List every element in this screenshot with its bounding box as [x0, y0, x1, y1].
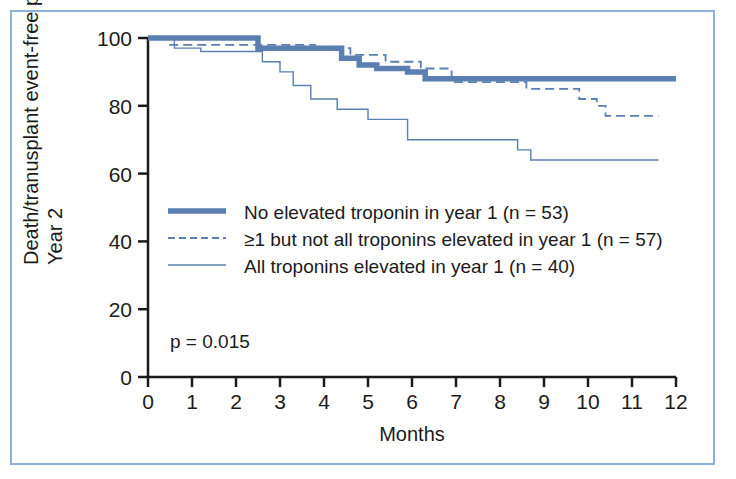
- y-tick-label: 100: [97, 27, 132, 50]
- x-tick-label: 8: [494, 390, 506, 413]
- x-tick-label: 3: [274, 390, 286, 413]
- x-tick-label: 10: [576, 390, 599, 413]
- kaplan-meier-figure: 020406080100 0123456789101112 Death/tran…: [0, 0, 736, 479]
- y-axis-title: Death/tranusplant event-free probability…: [20, 0, 42, 265]
- x-tick-label: 7: [450, 390, 462, 413]
- x-axis-ticks: 0123456789101112: [142, 377, 688, 413]
- y-tick-label: 80: [109, 95, 132, 118]
- x-tick-label: 2: [230, 390, 242, 413]
- x-tick-label: 9: [538, 390, 550, 413]
- y-tick-label: 60: [109, 163, 132, 186]
- legend-label-2: ≥1 but not all troponins elevated in yea…: [244, 229, 663, 250]
- p-value-annotation: p = 0.015: [170, 331, 250, 352]
- x-tick-label: 5: [362, 390, 374, 413]
- y-tick-label: 0: [120, 366, 132, 389]
- y-axis-ticks: 020406080100: [97, 27, 148, 389]
- legend-label-3: All troponins elevated in year 1 (n = 40…: [244, 256, 575, 277]
- x-axis-title: Months: [379, 423, 445, 445]
- y-tick-label: 40: [109, 230, 132, 253]
- y-tick-label: 20: [109, 298, 132, 321]
- chart-svg: 020406080100 0123456789101112 Death/tran…: [0, 0, 736, 479]
- y-axis-title-line2: Year 2: [44, 208, 66, 265]
- x-tick-label: 12: [664, 390, 687, 413]
- x-tick-label: 4: [318, 390, 330, 413]
- x-tick-label: 11: [621, 390, 643, 413]
- legend-label-1: No elevated troponin in year 1 (n = 53): [244, 202, 569, 223]
- survival-curves: [148, 38, 676, 160]
- x-tick-label: 6: [406, 390, 418, 413]
- x-tick-label: 0: [142, 390, 154, 413]
- chart-legend: No elevated troponin in year 1 (n = 53)≥…: [168, 202, 663, 277]
- x-tick-label: 1: [186, 390, 198, 413]
